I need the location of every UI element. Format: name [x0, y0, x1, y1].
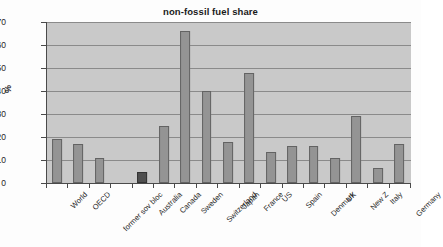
- bar[interactable]: [244, 73, 254, 183]
- x-tick-label: Spain: [304, 190, 324, 210]
- y-tick-label: 0: [0, 178, 6, 188]
- x-tick-mark: [324, 184, 325, 188]
- bar[interactable]: [309, 146, 319, 183]
- x-tick-label: Sweden: [199, 190, 225, 216]
- x-tick-mark: [196, 184, 197, 188]
- x-tick-label: US: [280, 190, 294, 204]
- bar[interactable]: [73, 144, 83, 183]
- x-tick-mark: [110, 184, 111, 188]
- x-tick-mark: [217, 184, 218, 188]
- bar-slot: [282, 22, 303, 183]
- x-axis-ticks: [46, 184, 410, 188]
- x-tick-mark: [367, 184, 368, 188]
- x-tick-mark: [67, 184, 68, 188]
- x-tick-label: Japan: [240, 190, 261, 211]
- chart-title: non-fossil fuel share: [0, 6, 421, 17]
- x-tick-mark: [174, 184, 175, 188]
- bar-slot: [67, 22, 88, 183]
- bar[interactable]: [266, 152, 276, 183]
- y-tick-label: 50: [0, 63, 6, 73]
- bar[interactable]: [202, 91, 212, 183]
- x-tick-mark: [282, 184, 283, 188]
- y-tick-label: 20: [0, 132, 6, 142]
- y-tick-label: 30: [0, 109, 6, 119]
- x-tick-label: World: [68, 190, 88, 210]
- y-tick-label: 10: [0, 155, 6, 165]
- bar-slot: [196, 22, 217, 183]
- bar[interactable]: [159, 126, 169, 184]
- bar[interactable]: [52, 139, 62, 183]
- bar[interactable]: [287, 146, 297, 183]
- bar-slot: [153, 22, 174, 183]
- bar[interactable]: [330, 158, 340, 183]
- bar[interactable]: [352, 116, 362, 183]
- y-tick-label: 70: [0, 17, 6, 27]
- x-tick-mark: [346, 184, 347, 188]
- bar-slot: [132, 22, 153, 183]
- x-tick-mark: [239, 184, 240, 188]
- bar[interactable]: [394, 144, 404, 183]
- bar-slot: [324, 22, 345, 183]
- bar-slot: [260, 22, 281, 183]
- bar-slot: [89, 22, 110, 183]
- x-tick-label: OECD: [91, 190, 113, 212]
- y-tick-label: 60: [0, 40, 6, 50]
- bar-slot: [46, 22, 67, 183]
- bar-slot: [239, 22, 260, 183]
- x-tick-mark: [260, 184, 261, 188]
- x-axis-labels: WorldOECDformer sov blocAustraliaCanadaS…: [46, 190, 410, 246]
- bar[interactable]: [180, 31, 190, 183]
- y-tick-label: 40: [0, 86, 6, 96]
- bar-slot: [174, 22, 195, 183]
- bar[interactable]: [373, 168, 383, 183]
- bar-slot: [346, 22, 367, 183]
- bar-slot: [217, 22, 238, 183]
- x-tick-mark: [89, 184, 90, 188]
- bar[interactable]: [137, 172, 147, 184]
- x-tick-mark: [132, 184, 133, 188]
- x-tick-mark: [46, 184, 47, 188]
- bar-slot: [303, 22, 324, 183]
- bar[interactable]: [95, 158, 105, 183]
- x-tick-label: France: [262, 190, 285, 213]
- x-tick-label: Italy: [388, 190, 404, 206]
- x-tick-mark: [389, 184, 390, 188]
- x-tick-label: Germany: [414, 190, 442, 218]
- bar-slot: [367, 22, 388, 183]
- bar[interactable]: [223, 142, 233, 183]
- bar-slot: [110, 22, 131, 183]
- x-tick-mark: [410, 184, 411, 188]
- bars-layer: [46, 22, 410, 183]
- x-tick-label: New Z: [369, 190, 391, 212]
- bar-slot: [389, 22, 410, 183]
- x-tick-mark: [303, 184, 304, 188]
- x-tick-mark: [153, 184, 154, 188]
